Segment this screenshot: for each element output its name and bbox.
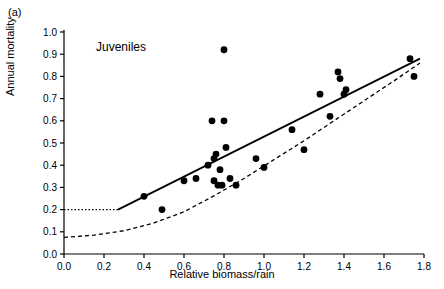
y-tick-label: 0.4 (43, 160, 57, 171)
x-axis-label: Relative biomass/rain (0, 268, 444, 280)
series-label: Juveniles (96, 40, 146, 54)
data-point (181, 177, 188, 184)
y-tick-label: 0.5 (43, 138, 57, 149)
y-tick-label: 0.0 (43, 249, 57, 260)
data-point (213, 151, 220, 158)
y-tick-label: 0.7 (43, 93, 57, 104)
y-tick-label: 0.2 (43, 204, 57, 215)
y-tick-label: 0.8 (43, 71, 57, 82)
data-point (233, 182, 240, 189)
data-point (205, 162, 212, 169)
scatter-plot: 0.00.20.40.60.81.01.21.41.61.80.00.10.20… (0, 0, 444, 289)
data-point (221, 46, 228, 53)
y-tick-label: 0.9 (43, 49, 57, 60)
data-point (317, 91, 324, 98)
data-point (193, 175, 200, 182)
dashed-fit-curve (64, 63, 420, 237)
data-point (261, 164, 268, 171)
data-point (407, 55, 414, 62)
data-point (217, 166, 224, 173)
data-point (159, 206, 166, 213)
y-tick-label: 0.1 (43, 226, 57, 237)
data-point (219, 182, 226, 189)
y-tick-label: 0.6 (43, 115, 57, 126)
data-point (335, 69, 342, 76)
y-tick-label: 0.3 (43, 182, 57, 193)
data-point (327, 113, 334, 120)
data-point (221, 117, 228, 124)
data-point (289, 126, 296, 133)
data-point (301, 146, 308, 153)
chart-figure: (a) Juveniles Annual mortality Relative … (0, 0, 444, 289)
data-point (209, 117, 216, 124)
y-axis-label: Annual mortality (4, 17, 16, 96)
y-tick-label: 1.0 (43, 27, 57, 38)
solid-fit-line (118, 59, 420, 210)
data-point (337, 75, 344, 82)
data-point (411, 73, 418, 80)
data-point (223, 144, 230, 151)
data-point (253, 155, 260, 162)
data-point (343, 86, 350, 93)
data-point (141, 193, 148, 200)
data-point (227, 175, 234, 182)
